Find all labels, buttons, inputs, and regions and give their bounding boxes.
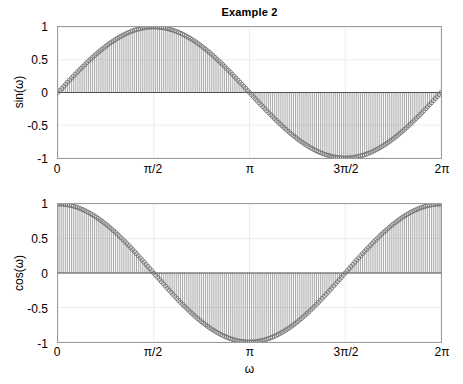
stem-plot-cos [58, 204, 441, 342]
x-tick-label-cos-pi: π [230, 345, 270, 359]
y-tick-label-sin-1: 1 [8, 20, 48, 34]
x-tick-label-cos-pi2: π/2 [133, 345, 173, 359]
figure-title: Example 2 [57, 6, 442, 18]
x-tick-label-sin-pi: π [230, 162, 270, 176]
stem-plot-sin [58, 27, 441, 158]
x-tick-label-sin-pi2: π/2 [133, 162, 173, 176]
y-tick-label-cos-neg05: -0.5 [8, 302, 48, 316]
x-tick-label-sin-3pi2: 3π/2 [326, 162, 366, 176]
y-tick-label-cos-1: 1 [8, 197, 48, 211]
y-tick-label-sin-neg05: -0.5 [8, 119, 48, 133]
x-tick-label-cos-2pi: 2π [422, 345, 462, 359]
y-tick-label-sin-0: 0 [8, 86, 48, 100]
y-tick-label-cos-05: 0.5 [8, 232, 48, 246]
x-tick-label-sin-2pi: 2π [422, 162, 462, 176]
y-tick-label-cos-0: 0 [8, 267, 48, 281]
y-tick-label-sin-05: 0.5 [8, 53, 48, 67]
axes-cos [57, 203, 442, 343]
x-tick-label-cos-0: 0 [37, 345, 77, 359]
figure-canvas: Example 2 sin(ω) 1 0.5 0 -0.5 -1 0 π/2 π… [0, 0, 463, 384]
x-tick-label-cos-3pi2: 3π/2 [326, 345, 366, 359]
x-axis-label: ω [57, 362, 442, 376]
axes-sin [57, 26, 442, 159]
x-tick-label-sin-0: 0 [37, 162, 77, 176]
